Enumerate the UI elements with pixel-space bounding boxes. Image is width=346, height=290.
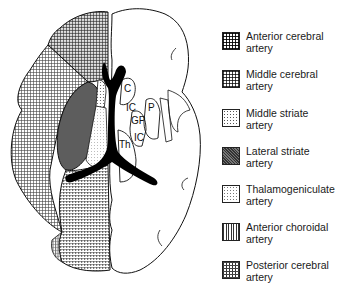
dark-crosshatch-swatch-icon <box>222 147 240 165</box>
legend-item-middle-cerebral: Middle cerebralartery <box>222 68 346 98</box>
legend-label: Thalamogeniculateartery <box>246 183 335 207</box>
vertical-dashes-swatch-icon <box>222 261 240 279</box>
thalamus-label: Th <box>119 140 131 150</box>
brain-axial-section-diagram <box>0 0 220 290</box>
legend-item-thalamogeniculate: Thalamogeniculateartery <box>222 183 346 213</box>
legend-item-anterior-choroidal: Anterior choroidalartery <box>222 221 346 251</box>
legend-item-anterior-cerebral: Anterior cerebralartery <box>222 30 346 60</box>
caudate-label: C <box>124 84 131 94</box>
legend-label: Lateral striateartery <box>246 145 310 169</box>
vertical-lines-swatch-icon <box>222 223 240 241</box>
legend-label: Middle cerebralartery <box>246 68 318 92</box>
legend: Anterior cerebralartery Middle cerebrala… <box>222 0 346 290</box>
legend-label: Anterior cerebralartery <box>246 30 324 54</box>
fine-grid-swatch-icon <box>222 70 240 88</box>
dense-dot-grid-swatch-icon <box>222 32 240 50</box>
globus-pallidus-label: GP <box>131 116 145 126</box>
putamen-label: P <box>148 103 155 113</box>
internal-capsule-anterior-label: IC <box>126 103 136 113</box>
sparse-dots-swatch-icon <box>222 185 240 203</box>
legend-label: Posterior cerebralartery <box>246 259 329 283</box>
legend-item-posterior-cerebral: Posterior cerebralartery <box>222 259 346 289</box>
dots-swatch-icon <box>222 109 240 127</box>
legend-label: Middle striateartery <box>246 107 308 131</box>
internal-capsule-posterior-label: IC <box>134 133 144 143</box>
legend-item-lateral-striate: Lateral striateartery <box>222 145 346 175</box>
legend-item-middle-striate: Middle striateartery <box>222 107 346 137</box>
legend-label: Anterior choroidalartery <box>246 221 328 245</box>
